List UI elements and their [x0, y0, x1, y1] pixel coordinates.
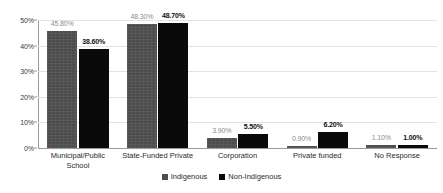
legend-swatch-icon: [219, 174, 225, 180]
x-axis-category-label: State-Funded Private: [122, 151, 193, 161]
bar-value-label: 45.80%: [51, 20, 74, 27]
bar-chart: 0%10%20%30%40%50% 45.80%38.60%48.30%48.7…: [0, 0, 443, 193]
bar-non-indigenous: [79, 49, 109, 148]
bar-value-label: 48.30%: [131, 13, 154, 20]
bar-indigenous: [366, 145, 396, 148]
legend-swatch-icon: [162, 174, 168, 180]
x-axis-category-label: Corporation: [218, 151, 257, 161]
bar-value-label: 38.60%: [82, 38, 105, 45]
x-axis-baseline: [38, 148, 437, 149]
bar-indigenous: [47, 31, 77, 148]
bar-non-indigenous: [318, 132, 348, 148]
x-axis-category-label: Private funded: [293, 151, 341, 161]
legend-item-label: Indigenous: [171, 173, 208, 181]
y-axis-tick-label: 0%: [4, 145, 34, 152]
bar-value-label: 5.50%: [244, 123, 263, 130]
y-axis-tick-label: 50%: [4, 17, 34, 24]
bar-non-indigenous: [398, 145, 428, 148]
y-axis-tick-mark: [34, 45, 37, 46]
y-axis-tick-mark: [34, 20, 37, 21]
y-axis-tick-label: 40%: [4, 42, 34, 49]
plot-area: 45.80%38.60%48.30%48.70%3.90%5.50%0.90%6…: [38, 20, 437, 148]
y-axis-tick-mark: [34, 148, 37, 149]
legend-item-label: Non-Indigenous: [228, 173, 281, 181]
y-axis-tick-mark: [34, 122, 37, 123]
y-axis-tick-mark: [34, 71, 37, 72]
y-axis-tick-label: 30%: [4, 68, 34, 75]
gridline: [38, 20, 437, 21]
bar-value-label: 0.90%: [292, 135, 311, 142]
legend: IndigenousNon-Indigenous: [0, 173, 443, 181]
gridline: [38, 46, 437, 47]
bar-indigenous: [287, 146, 317, 148]
x-axis-category-label: Municipal/Public School: [51, 151, 105, 170]
bar-non-indigenous: [158, 23, 188, 148]
y-axis: 0%10%20%30%40%50%: [0, 20, 34, 148]
bar-value-label: 6.20%: [323, 121, 342, 128]
bar-non-indigenous: [238, 134, 268, 148]
y-axis-tick-label: 10%: [4, 119, 34, 126]
legend-item[interactable]: Indigenous: [162, 173, 208, 181]
bar-value-label: 1.00%: [403, 134, 422, 141]
bar-value-label: 1.10%: [372, 134, 391, 141]
bar-value-label: 48.70%: [162, 12, 185, 19]
legend-item[interactable]: Non-Indigenous: [219, 173, 281, 181]
bar-indigenous: [207, 138, 237, 148]
y-axis-tick-mark: [34, 96, 37, 97]
bar-value-label: 3.90%: [212, 127, 231, 134]
x-axis-category-label: No Response: [374, 151, 419, 161]
bar-indigenous: [127, 24, 157, 148]
y-axis-tick-label: 20%: [4, 93, 34, 100]
